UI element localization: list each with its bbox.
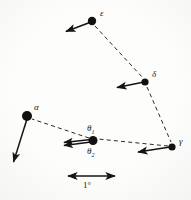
scale-bar-label: 1° bbox=[83, 181, 91, 190]
star-label-alpha: α bbox=[34, 103, 39, 112]
star-label-theta1: θ1 bbox=[87, 124, 94, 135]
diagram-canvas bbox=[0, 0, 191, 200]
connection-epsilon-delta bbox=[95, 26, 143, 78]
connection-beta-alpha bbox=[32, 119, 89, 138]
star-label-theta2: θ2 bbox=[87, 147, 94, 158]
star-label-delta: δ bbox=[152, 70, 156, 79]
vector-epsilon bbox=[66, 22, 91, 32]
star-dot-beta bbox=[89, 136, 98, 145]
proper-motion-diagram: ε δ γ α θ1 θ2 1° bbox=[0, 0, 191, 200]
star-dot-epsilon bbox=[88, 17, 96, 25]
connection-delta-gamma bbox=[147, 87, 171, 142]
star-label-epsilon: ε bbox=[100, 9, 104, 18]
vector-delta bbox=[117, 82, 144, 88]
star-label-theta1-subscript: 1 bbox=[91, 129, 94, 135]
star-markers bbox=[22, 17, 176, 151]
vector-alpha bbox=[14, 119, 28, 162]
star-label-gamma: γ bbox=[179, 137, 183, 146]
star-dot-delta bbox=[141, 78, 148, 85]
connection-gamma-beta bbox=[98, 139, 168, 146]
star-label-theta2-subscript: 2 bbox=[91, 152, 94, 158]
vector-gamma bbox=[138, 147, 170, 152]
star-dot-gamma bbox=[168, 143, 175, 150]
connection-lines bbox=[32, 26, 171, 146]
star-dot-alpha bbox=[22, 111, 32, 121]
